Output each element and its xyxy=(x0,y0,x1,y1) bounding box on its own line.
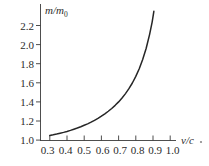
y-tick-label: 1.4 xyxy=(20,96,34,108)
x-axis-label-text: v/c xyxy=(181,134,194,146)
y-axis-label-text: m/m xyxy=(45,4,64,16)
x-axis-label: v/c xyxy=(181,134,194,146)
trailing-period-mark xyxy=(200,141,202,143)
y-tick-label: 1.8 xyxy=(20,58,34,70)
y-tick-label: 1.2 xyxy=(20,115,34,127)
y-tick-label: 2.2 xyxy=(20,20,34,32)
x-tick-label: 0.9 xyxy=(148,144,162,156)
x-tick-label: 0.3 xyxy=(41,144,55,156)
chart-canvas: 2.2 2.0 1.8 1.6 1.4 1.2 1.0 0.3 0.4 0.5 … xyxy=(0,0,209,166)
x-tick-label: 0.4 xyxy=(59,144,73,156)
y-tick-label: 2.0 xyxy=(20,39,34,51)
x-tick-label: 0.8 xyxy=(131,144,145,156)
x-tick-label: 0.5 xyxy=(77,144,91,156)
x-tick-label: 1.0 xyxy=(166,144,180,156)
y-tick-label: 1.0 xyxy=(20,134,34,146)
x-tick-label: 0.7 xyxy=(113,144,127,156)
y-axis-label-subscript: 0 xyxy=(64,10,68,19)
x-tick-label: 0.6 xyxy=(96,144,110,156)
relativistic-mass-chart: 2.2 2.0 1.8 1.6 1.4 1.2 1.0 0.3 0.4 0.5 … xyxy=(0,0,209,166)
y-tick-label: 1.6 xyxy=(20,77,34,89)
